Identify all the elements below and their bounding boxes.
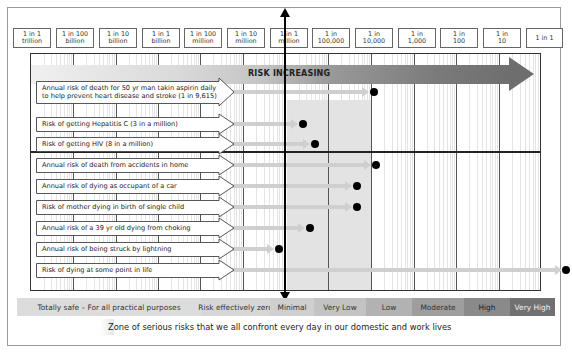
risk-increasing-arrowhead-icon [509, 57, 534, 91]
minor-gridline [392, 54, 393, 290]
legend-label: Moderate [420, 303, 455, 312]
legend-label: Very High [515, 303, 551, 312]
legend-band-1: Risk effectively zero [201, 298, 270, 316]
minor-gridline [405, 54, 406, 290]
risk-bar [232, 184, 345, 188]
minor-gridline [412, 54, 413, 290]
risk-increasing-label: RISK INCREASING [248, 69, 330, 78]
scale-label-line2: million [235, 38, 257, 45]
legend-label: Very Low [323, 303, 356, 312]
minor-gridline [407, 54, 408, 290]
scale-label-2: 1 in 10billion [99, 28, 137, 48]
scale-label-1: 1 in 100billion [56, 28, 94, 48]
risk-value-dot [306, 224, 314, 232]
legend-band-5: Moderate [412, 298, 464, 316]
risk-bar [232, 268, 555, 272]
scale-label-10: 1 in100 [440, 28, 478, 48]
minor-gridline [497, 54, 498, 290]
risk-label-text: Annual risk of death for 50 yr man takin… [42, 84, 217, 92]
risk-bar-arrowhead-icon [267, 244, 274, 254]
minor-gridline [535, 54, 536, 290]
minor-gridline [427, 54, 428, 290]
scale-label-line1: 1 in 1 [535, 35, 553, 42]
scale-label-0: 1 in 1trillion [13, 28, 51, 48]
minor-gridline [486, 54, 487, 290]
risk-bar [232, 122, 291, 126]
scale-label-8: 1 in10,000 [355, 28, 393, 48]
minor-gridline [410, 54, 411, 290]
scale-label-line2: billion [107, 38, 129, 45]
scale-label-4: 1 in 100million [184, 28, 222, 48]
scale-label-line2: million [278, 38, 299, 45]
minor-gridline [401, 54, 402, 290]
scale-label-line2: million [190, 38, 216, 45]
legend-band-4: Low [366, 298, 412, 316]
legend-band-2: Minimal [270, 298, 314, 316]
scale-label-11: 1 in10 [483, 28, 521, 48]
scale-label-12: 1 in 1 [526, 28, 563, 48]
legend-label: Risk effectively zero [198, 303, 272, 312]
risk-bar-arrowhead-icon [345, 181, 352, 191]
risk-value-dot [311, 140, 319, 148]
risk-bar [232, 142, 303, 146]
risk-label-text: Risk of mother dying in birth of single … [42, 203, 184, 211]
legend-band-0: Totally safe – For all practical purpose… [17, 298, 201, 316]
risk-bar [232, 226, 298, 230]
serious-risk-zone [287, 100, 371, 291]
risk-bar [232, 205, 345, 209]
legend-band-7: Very High [510, 298, 555, 316]
risk-label-text: Annual risk of death from accidents in h… [42, 161, 188, 169]
risk-bar-arrowhead-icon [362, 87, 369, 97]
risk-bar-arrowhead-icon [291, 119, 298, 129]
minor-gridline [443, 54, 444, 290]
risk-value-dot [275, 245, 283, 253]
major-gridline [499, 54, 500, 290]
legend-label: Minimal [278, 303, 307, 312]
scale-label-line2: billion [62, 38, 88, 45]
risk-bar [232, 247, 267, 251]
risk-label-text: Annual risk of a 39 yr old dying from ch… [42, 224, 191, 232]
risk-bar-arrowhead-icon [364, 160, 371, 170]
minor-gridline [439, 54, 440, 290]
scale-label-3: 1 in 1billion [142, 28, 180, 48]
risk-label-text: Annual risk of dying as occupant of a ca… [42, 182, 177, 190]
minor-gridline [450, 54, 451, 290]
minor-gridline [495, 54, 496, 290]
legend-label: Low [382, 303, 397, 312]
scale-label-line2: 10 [496, 38, 508, 45]
risk-label-text: Risk of getting Hepatitis C (3 in a mill… [42, 120, 178, 128]
scale-label-5: 1 in 10million [227, 28, 265, 48]
risk-bar-arrowhead-icon [555, 265, 562, 275]
minor-gridline [397, 54, 398, 290]
scale-label-line2: 1,000 [408, 38, 426, 45]
one-in-a-million-axis [284, 14, 286, 294]
scale-label-line2: 10,000 [363, 38, 385, 45]
risk-label-text-line2: to help prevent heart disease and stroke… [42, 92, 217, 100]
risk-value-dot [353, 203, 361, 211]
arrow-up-icon [280, 8, 290, 17]
risk-value-dot [372, 161, 380, 169]
scale-label-9: 1 in1,000 [398, 28, 436, 48]
minor-gridline [447, 54, 448, 290]
risk-label-text: Annual risk of being struck by lightning [42, 245, 172, 253]
scale-label-6: 1 in 1million [270, 28, 308, 48]
zone-caption: Zone of serious risks that we all confro… [108, 322, 451, 332]
risk-value-dot [370, 88, 378, 96]
minor-gridline [469, 54, 470, 290]
risk-level-legend: Totally safe – For all practical purpose… [17, 298, 555, 316]
minor-gridline [492, 54, 493, 290]
minor-gridline [477, 54, 478, 290]
risk-bar-arrowhead-icon [345, 202, 352, 212]
minor-gridline [384, 54, 385, 290]
risk-bar-arrowhead-icon [298, 223, 305, 233]
legend-band-6: High [464, 298, 510, 316]
risk-label-text: Risk of dying at some point in life [42, 266, 152, 274]
risk-value-dot [562, 266, 570, 274]
risk-label-text: Risk of getting HIV (8 in a million) [42, 140, 153, 148]
scale-label-line2: 100 [453, 38, 465, 45]
risk-bar [232, 90, 362, 94]
minor-gridline [490, 54, 491, 290]
minor-gridline [454, 54, 455, 290]
risk-bar-arrowhead-icon [303, 139, 310, 149]
scale-label-line2: 100,000 [318, 38, 344, 45]
